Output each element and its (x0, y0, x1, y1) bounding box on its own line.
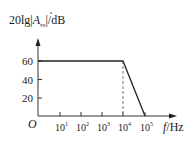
y-tick-label-60: 60 (22, 55, 34, 67)
svg-text:101: 101 (55, 121, 68, 133)
origin-label: O (28, 117, 37, 131)
y-axis-label: 20lg|Avs|/dB (9, 13, 65, 28)
bode-magnitude-chart: 20lg|Avs|/dB 60 40 20 O 101 102 103 104 … (0, 0, 196, 141)
y-axis-arrow-icon (36, 38, 41, 46)
svg-text:102: 102 (76, 121, 89, 133)
y-ticks (38, 61, 42, 98)
x-ticks (60, 112, 145, 116)
svg-text:104: 104 (118, 121, 131, 133)
y-tick-label-20: 20 (22, 92, 34, 104)
x-axis-label: f/Hz (163, 120, 184, 134)
x-tick-labels: 101 102 103 104 105 (55, 121, 153, 133)
y-label-dot-accent (50, 12, 52, 14)
x-axis-arrow-icon (169, 114, 177, 119)
y-tick-label-40: 40 (22, 74, 34, 86)
magnitude-response-line (38, 61, 145, 116)
svg-text:105: 105 (140, 121, 153, 133)
svg-text:103: 103 (97, 121, 110, 133)
